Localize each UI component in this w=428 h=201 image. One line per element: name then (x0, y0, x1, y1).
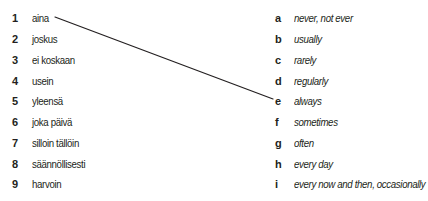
item-letter: d (275, 75, 294, 87)
finnish-term-item: 5 yleensä (12, 91, 92, 112)
english-term-item: c rarely (275, 50, 428, 71)
finnish-term: joskus (32, 33, 57, 45)
finnish-terms-list: 1 aina 2 joskus 3 ei koskaan 4 usein 5 y… (12, 8, 92, 195)
english-term: always (294, 95, 321, 107)
finnish-term-item: 9 harvoin (12, 174, 92, 195)
english-term: rarely (294, 54, 316, 66)
english-term-item: i every now and then, occasionally (275, 174, 428, 195)
english-term: sometimes (294, 116, 338, 128)
finnish-term-item: 4 usein (12, 70, 92, 91)
item-number: 8 (12, 158, 32, 170)
finnish-term: aina (32, 12, 49, 24)
english-terms-list: a never, not ever b usually c rarely d r… (275, 8, 428, 195)
english-term: often (294, 137, 314, 149)
english-term-item: a never, not ever (275, 8, 428, 29)
item-letter: g (275, 137, 294, 149)
finnish-term: yleensä (32, 95, 63, 107)
finnish-term-item: 8 säännöllisesti (12, 153, 92, 174)
english-term-item: f sometimes (275, 112, 428, 133)
finnish-term: harvoin (32, 178, 61, 190)
finnish-term-item: 6 joka päivä (12, 112, 92, 133)
finnish-term: säännöllisesti (32, 158, 85, 170)
finnish-term: joka päivä (32, 116, 72, 128)
item-letter: i (275, 178, 294, 190)
item-letter: f (275, 116, 294, 128)
item-letter: b (275, 33, 294, 45)
english-term-item: h every day (275, 153, 428, 174)
item-letter: a (275, 12, 294, 24)
finnish-term: ei koskaan (32, 54, 75, 66)
finnish-term: usein (32, 75, 53, 87)
item-letter: c (275, 54, 294, 66)
finnish-term: silloin tällöin (32, 137, 79, 149)
item-number: 1 (12, 12, 32, 24)
finnish-term-item: 3 ei koskaan (12, 50, 92, 71)
english-term: never, not ever (294, 12, 353, 24)
english-term-item: g often (275, 133, 428, 154)
english-term: every now and then, occasionally (294, 178, 425, 190)
item-number: 4 (12, 75, 32, 87)
item-number: 5 (12, 95, 32, 107)
item-number: 3 (12, 54, 32, 66)
english-term-item: b usually (275, 29, 428, 50)
item-number: 2 (12, 33, 32, 45)
item-letter: h (275, 158, 294, 170)
english-term: usually (294, 33, 322, 45)
item-letter: e (275, 95, 294, 107)
english-term-item: e always (275, 91, 428, 112)
english-term-item: d regularly (275, 70, 428, 91)
item-number: 6 (12, 116, 32, 128)
english-term: regularly (294, 75, 328, 87)
finnish-term-item: 2 joskus (12, 29, 92, 50)
finnish-term-item: 7 silloin tällöin (12, 133, 92, 154)
finnish-term-item: 1 aina (12, 8, 92, 29)
item-number: 9 (12, 178, 32, 190)
english-term: every day (294, 158, 333, 170)
item-number: 7 (12, 137, 32, 149)
